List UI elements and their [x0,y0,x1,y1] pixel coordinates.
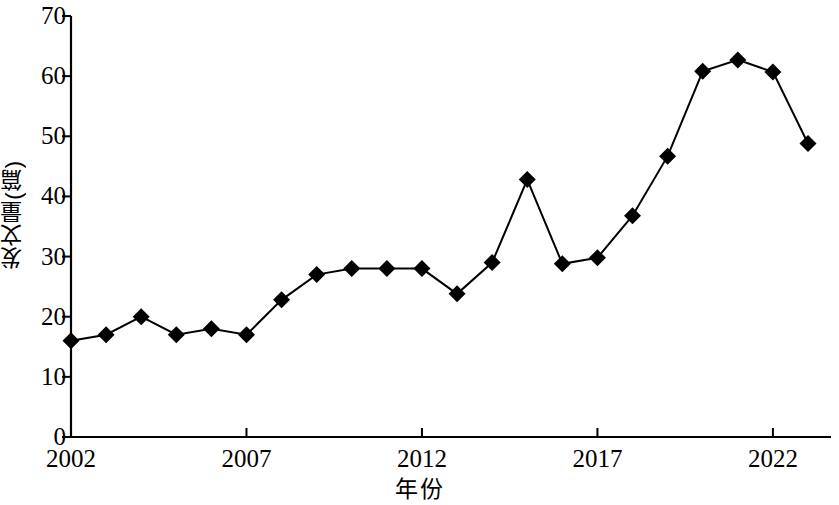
data-point-marker [378,260,395,277]
publication-count-line-chart: 发文量(篇) 010203040506070 20022007201220172… [0,0,839,505]
data-point-marker [729,51,746,68]
data-point-marker [133,308,150,325]
x-axis-tick-label: 2022 [718,446,828,472]
data-point-marker [694,63,711,80]
axes [71,16,831,437]
data-markers [63,51,817,349]
data-point-marker [203,320,220,337]
y-axis-ticks [62,16,71,437]
data-point-marker [659,148,676,165]
data-point-marker [168,326,185,343]
data-point-marker [413,260,430,277]
x-axis-tick-label: 2002 [16,446,126,472]
data-point-marker [764,63,781,80]
x-axis-tick-label: 2007 [191,446,301,472]
x-axis-tick-label: 2017 [542,446,652,472]
plot-area [0,0,839,505]
data-point-marker [308,266,325,283]
x-axis-title: 年份 [0,470,839,504]
data-point-marker [519,171,536,188]
x-axis-tick-label: 2012 [367,446,477,472]
data-point-marker [63,332,80,349]
data-point-marker [98,326,115,343]
data-line [71,60,808,341]
data-point-marker [554,255,571,272]
x-axis-ticks [246,428,772,437]
data-point-marker [800,135,817,152]
data-point-marker [343,260,360,277]
